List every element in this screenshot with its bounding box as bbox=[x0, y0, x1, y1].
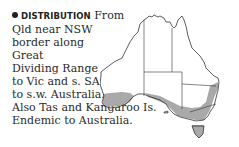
australia-distribution-map bbox=[100, 6, 236, 141]
tasmania bbox=[192, 126, 204, 138]
bullet-icon bbox=[12, 12, 18, 18]
kangaroo-island bbox=[164, 111, 168, 113]
distribution-heading: DISTRIBUTION bbox=[21, 11, 91, 21]
